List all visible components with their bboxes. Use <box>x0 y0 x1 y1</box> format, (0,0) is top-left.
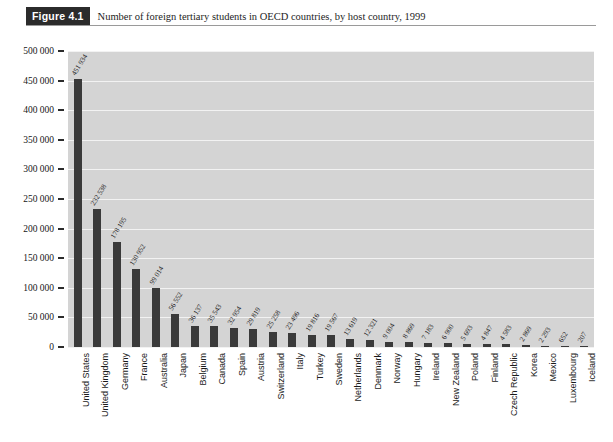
bar <box>249 329 257 347</box>
y-axis-tick-label: 450 000 <box>23 76 54 86</box>
y-axis-tick-mark <box>58 228 64 230</box>
y-axis-tick: 350 000 <box>23 134 68 146</box>
x-axis-tick: New Zealand <box>438 351 457 441</box>
bar-value-label: 652 <box>557 330 569 343</box>
y-axis-tick: 200 000 <box>23 223 68 235</box>
bar-value-label: 56 552 <box>167 291 184 312</box>
y-axis-tick-mark <box>58 109 64 111</box>
bar <box>210 326 218 347</box>
bar-group: 19 816 <box>302 51 321 347</box>
bar-value-label: 207 <box>576 330 588 343</box>
bar <box>444 343 452 347</box>
bar <box>308 335 316 347</box>
bar <box>132 269 140 347</box>
x-axis-tick: Spain <box>224 351 243 441</box>
x-axis-tick: Canada <box>204 351 223 441</box>
x-axis-tick: Mexico <box>536 351 555 441</box>
bar <box>230 328 238 348</box>
bar-value-label: 5 693 <box>460 324 475 342</box>
bar <box>385 342 393 347</box>
x-axis-tick: Poland <box>458 351 477 441</box>
bar-value-label: 4 847 <box>479 324 494 342</box>
bar-value-label: 32 954 <box>226 304 243 325</box>
figure-number-badge: Figure 4.1 <box>26 7 90 25</box>
x-axis-tick: Turkey <box>302 351 321 441</box>
bar-value-label: 8 869 <box>401 322 416 340</box>
bar-group: 32 954 <box>224 51 243 347</box>
x-axis-tick: Denmark <box>360 351 379 441</box>
bar-group: 9 004 <box>380 51 399 347</box>
x-axis-tick: Iceland <box>575 351 594 441</box>
x-axis-tick: Czech Republic <box>497 351 516 441</box>
bar <box>288 333 296 347</box>
y-axis-tick-mark <box>58 50 64 52</box>
figure-title: Number of foreign tertiary students in O… <box>90 7 426 25</box>
y-axis-tick: 300 000 <box>23 163 68 175</box>
y-axis-tick: 250 000 <box>23 193 68 205</box>
y-axis-tick-mark <box>58 198 64 200</box>
y-axis-tick-label: 100 000 <box>23 283 54 293</box>
bar-value-label: 9 004 <box>382 322 397 340</box>
bar <box>541 346 549 347</box>
y-axis-tick-label: 350 000 <box>23 135 54 145</box>
bar-chart: 500 000450 000400 000350 000300 000250 0… <box>0 34 613 442</box>
bar-group: 232 538 <box>87 51 106 347</box>
bar <box>405 342 413 347</box>
y-axis-tick-label: 200 000 <box>23 224 54 234</box>
bar-value-label: 178 195 <box>109 215 128 239</box>
bar <box>93 209 101 347</box>
bar <box>366 340 374 347</box>
bar <box>522 345 530 347</box>
x-axis-tick: Hungary <box>399 351 418 441</box>
y-axis: 500 000450 000400 000350 000300 000250 0… <box>0 51 68 347</box>
bar-group: 207 <box>575 51 594 347</box>
bar-value-label: 451 934 <box>70 53 89 77</box>
bar-group: 5 693 <box>458 51 477 347</box>
bar-group: 7 183 <box>419 51 438 347</box>
x-axis-tick: France <box>126 351 145 441</box>
bar-group: 29 819 <box>243 51 262 347</box>
x-axis-tick: United Kingdom <box>87 351 106 441</box>
x-axis-tick: Finland <box>477 351 496 441</box>
y-axis-tick-mark <box>58 346 64 348</box>
y-axis-tick-mark <box>58 80 64 82</box>
bar-group: 23 496 <box>282 51 301 347</box>
bar-value-label: 29 819 <box>245 306 262 327</box>
bar-value-label: 12 321 <box>362 317 379 338</box>
y-axis-tick: 50 000 <box>28 311 68 323</box>
bar-group: 56 552 <box>165 51 184 347</box>
bar <box>113 242 121 347</box>
bar-group: 652 <box>555 51 574 347</box>
bar <box>346 339 354 347</box>
figure-caption-bar: Figure 4.1 Number of foreign tertiary st… <box>26 7 596 26</box>
bar-value-label: 7 183 <box>421 323 436 341</box>
bar-group: 36 137 <box>185 51 204 347</box>
x-axis-tick: Korea <box>516 351 535 441</box>
x-axis-tick: Belgium <box>185 351 204 441</box>
bar-group: 19 567 <box>321 51 340 347</box>
y-axis-tick-label: 50 000 <box>28 312 54 322</box>
x-axis-tick: Norway <box>380 351 399 441</box>
bar-value-label: 13 619 <box>343 316 360 337</box>
bar-value-label: 2 293 <box>537 326 552 344</box>
bar-group: 2 869 <box>516 51 535 347</box>
bar-value-label: 130 952 <box>128 243 147 267</box>
bar <box>580 346 588 347</box>
y-axis-tick-mark <box>58 168 64 170</box>
bar-value-label: 36 137 <box>187 303 204 324</box>
y-axis-tick-label: 150 000 <box>23 253 54 263</box>
y-axis-tick: 150 000 <box>23 252 68 264</box>
bar-group: 13 619 <box>341 51 360 347</box>
x-axis-tick: Austria <box>243 351 262 441</box>
bar-value-label: 6 900 <box>440 323 455 341</box>
bar <box>191 326 199 347</box>
x-axis-tick: Luxembourg <box>555 351 574 441</box>
bar-value-label: 99 014 <box>148 265 165 286</box>
bar-group: 178 195 <box>107 51 126 347</box>
bar <box>483 344 491 347</box>
bar-group: 6 900 <box>438 51 457 347</box>
y-axis-tick: 500 000 <box>23 45 68 57</box>
y-axis-tick: 400 000 <box>23 104 68 116</box>
x-axis-tick: Netherlands <box>341 351 360 441</box>
x-axis-tick: Japan <box>165 351 184 441</box>
